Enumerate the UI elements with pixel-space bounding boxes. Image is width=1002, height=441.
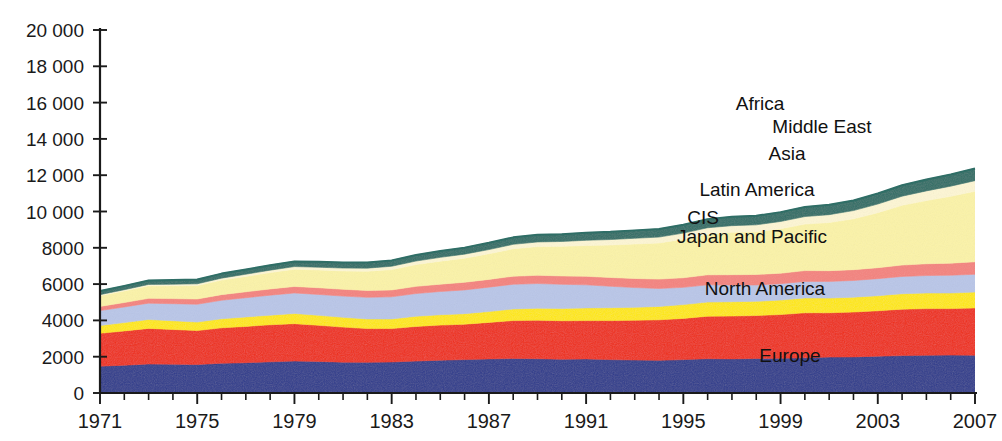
y-tick-label: 18 000	[26, 56, 84, 77]
y-tick-label: 4000	[42, 310, 84, 331]
series-label-europe: Europe	[759, 345, 820, 366]
x-tick-label: 1971	[78, 410, 123, 432]
series-label-latin-america: Latin America	[699, 179, 815, 200]
y-tick-label: 8000	[42, 238, 84, 259]
series-label-middle-east: Middle East	[772, 116, 872, 137]
y-tick-label: 0	[73, 383, 84, 404]
x-axis-tick-labels: 1971197519791983198719911995199920032007	[78, 410, 998, 432]
x-tick-label: 1999	[758, 410, 803, 432]
y-tick-label: 6000	[42, 274, 84, 295]
x-tick-label: 1987	[467, 410, 512, 432]
y-tick-label: 2000	[42, 347, 84, 368]
x-tick-label: 1979	[272, 410, 317, 432]
series-label-cis: CIS	[687, 207, 719, 228]
series-label-japan-and-pacific: Japan and Pacific	[677, 226, 827, 247]
series-label-asia: Asia	[769, 143, 806, 164]
y-tick-label: 14 000	[26, 129, 84, 150]
y-axis-tick-labels: 0200040006000800010 00012 00014 00016 00…	[26, 20, 84, 404]
x-tick-label: 2007	[953, 410, 998, 432]
x-tick-label: 1983	[369, 410, 414, 432]
area-series-group	[100, 168, 975, 393]
stacked-area-chart: 0200040006000800010 00012 00014 00016 00…	[0, 0, 1002, 441]
x-tick-label: 1991	[564, 410, 609, 432]
x-tick-label: 1995	[661, 410, 706, 432]
y-tick-label: 10 000	[26, 202, 84, 223]
chart-canvas: 0200040006000800010 00012 00014 00016 00…	[0, 0, 1002, 441]
x-tick-label: 2003	[856, 410, 901, 432]
y-tick-label: 20 000	[26, 20, 84, 41]
y-tick-label: 12 000	[26, 165, 84, 186]
x-tick-label: 1975	[175, 410, 220, 432]
series-label-africa: Africa	[736, 93, 785, 114]
series-label-north-america: North America	[705, 278, 826, 299]
y-tick-label: 16 000	[26, 93, 84, 114]
